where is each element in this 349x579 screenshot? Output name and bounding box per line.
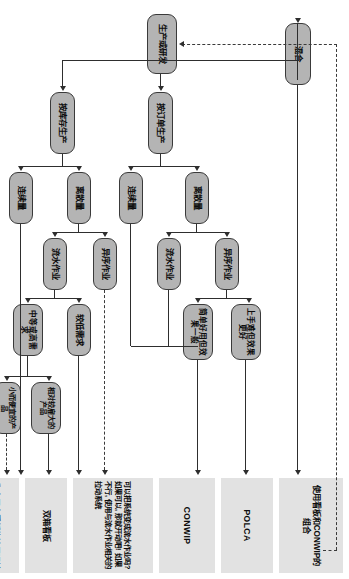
node-small-cheap-product: 小而便宜的产品 — [0, 382, 21, 434]
edge-to-small-cheap-arrow — [4, 376, 10, 381]
edge-low-demand-to-twobin — [78, 356, 79, 470]
node-mid-high-demand: 中等或高需求 — [13, 304, 43, 356]
edge-mto-flow-riser — [169, 346, 198, 347]
result-two-bin-kanban: 双箱看板 — [25, 478, 67, 573]
edge-harder-to-polca — [245, 360, 246, 470]
edge-simple-to-conwip-arrow — [195, 470, 201, 475]
feedback-loop-top — [336, 44, 337, 550]
edge-large-to-prodkanban — [48, 434, 49, 470]
edge-mto-to-discrete-arrow — [194, 166, 200, 171]
edge-root-to-mto-arrow — [158, 86, 164, 91]
node-mts-discrete: 离散量 — [67, 172, 91, 224]
edge-to-mto-flow-arrow — [166, 232, 172, 237]
edge-mts-discrete-split — [55, 232, 105, 233]
edge-mts-split — [21, 166, 79, 167]
edge-harder-to-polca-arrow — [243, 470, 249, 475]
edge-mto-discrete-split — [169, 232, 227, 233]
root-spine — [63, 60, 298, 61]
feedback-loop-right — [323, 550, 337, 551]
edge-to-mts-flow-arrow — [52, 232, 58, 237]
edge-to-mto-jobshop-arrow — [224, 232, 230, 237]
node-simple-but-average: 简单好用但效果一般 — [183, 304, 213, 360]
edge-mto-to-continuous-arrow — [128, 166, 134, 171]
node-mto-jobshop: 异序作业 — [215, 238, 239, 290]
node-mto-discrete: 离散量 — [185, 172, 209, 224]
edge-mts-flow-out — [54, 290, 55, 298]
edge-to-large-product-arrow — [46, 376, 52, 381]
node-mto-continuous: 连续量 — [119, 172, 143, 224]
result-kanban-conwip-combo: 使用看板和CONWIP的组合 — [279, 478, 343, 573]
edge-to-low-demand-arrow — [76, 298, 82, 303]
edge-to-simple-average-arrow — [195, 298, 201, 303]
edge-mts-discrete-out — [78, 224, 79, 232]
edge-mts-continuous-to-reorder — [20, 224, 21, 470]
edge-mto-jobshop-out — [226, 290, 227, 298]
edge-low-demand-to-twobin-arrow — [76, 470, 82, 475]
node-make-to-order: 按订单生产 — [148, 92, 173, 154]
edge-spine-to-mts — [62, 60, 63, 86]
node-root: 生产或研发 — [147, 14, 177, 74]
edge-small-cheap-to-triangle — [6, 434, 7, 470]
edge-mixed-feed — [297, 23, 298, 60]
edge-large-to-prodkanban-arrow — [46, 470, 52, 475]
edge-mto-split — [131, 166, 197, 167]
edge-to-mts-discrete-arrow — [76, 166, 82, 171]
edge-mto-flow-out — [168, 290, 169, 346]
edge-to-mid-high-demand-arrow — [25, 298, 31, 303]
node-large-product: 相对较雇大的产品 — [31, 382, 61, 434]
edge-mts-jobshop-note-arrow — [102, 470, 108, 475]
edge-mto-discrete-out — [196, 224, 197, 232]
feedback-loop-arrow — [179, 41, 184, 47]
edge-small-cheap-to-triangle-arrow — [4, 470, 10, 475]
edge-spine-to-mixed — [297, 60, 298, 80]
edge-root-to-mto — [160, 74, 161, 86]
edge-to-harder-better-arrow — [246, 298, 252, 303]
result-polca: POLCA — [221, 478, 273, 573]
decision-tree-diagram: 生产或研发 混合 按订单生产 离散量 连续量 异序作业 流水作业 上手难但效果更… — [0, 0, 349, 579]
edge-spine-to-mts-arrow — [60, 86, 66, 91]
edge-simple-to-conwip — [197, 360, 198, 470]
edge-mid-high-out — [27, 356, 28, 376]
result-conwip: CONWIP — [159, 478, 215, 573]
result-flow-note: 可以把系统变成流水作业吗? 如果可以, 那就开动吧! 如果不行, 使用与流水作业… — [73, 478, 153, 573]
edge-mts-continuous-to-reorder-arrow — [18, 470, 24, 475]
edge-mts-flow-split — [28, 298, 79, 299]
result-production-transport-kanban: 生产用产看板物流用运输看板 — [0, 478, 19, 573]
edge-mts-out — [62, 154, 63, 166]
node-mts-jobshop: 异序作业 — [93, 238, 117, 290]
edge-mto-out — [160, 154, 161, 166]
node-low-demand: 较低需求 — [67, 304, 91, 356]
node-mts-flow: 流水作业 — [43, 238, 67, 290]
node-make-to-stock: 按库存生产 — [50, 92, 75, 154]
node-mixed: 混合 — [285, 23, 311, 85]
node-mts-continuous: 连续量 — [9, 172, 33, 224]
edge-spine-to-mixed-arrow — [295, 18, 301, 23]
edge-mto-continuous-out — [130, 224, 131, 346]
edge-mid-high-split — [7, 376, 49, 377]
edge-to-mts-continuous-arrow — [18, 166, 24, 171]
edge-mixed-to-combo-arrow — [295, 470, 301, 475]
node-harder-but-better: 上手难但效果更好 — [231, 304, 261, 360]
feedback-loop-left — [182, 44, 337, 45]
node-mto-flow: 流水作业 — [157, 238, 181, 290]
edge-to-mts-jobshop-arrow — [102, 232, 108, 237]
edge-mto-continuous-riser — [131, 346, 169, 347]
edge-mts-jobshop-note — [104, 290, 105, 470]
edge-mixed-to-combo — [297, 85, 298, 470]
edge-mto-jobshop-split — [198, 298, 249, 299]
